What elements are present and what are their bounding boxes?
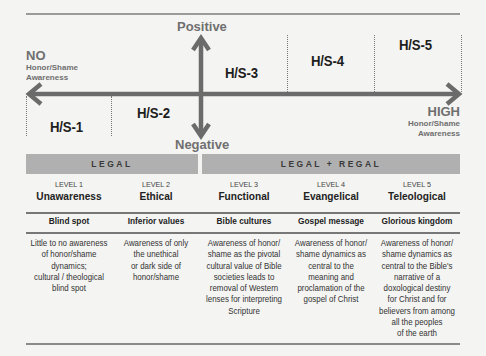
zone-divider [374,35,375,92]
level-description-1: Little to no awarenessof honor/shamedyna… [26,238,112,294]
level-description-3: Awareness of honor/shame as the pivotalc… [200,238,288,317]
level-column-1: LEVEL 1 Unawareness [26,180,112,202]
level-number: LEVEL 3 [204,180,283,189]
axis-left-label: NO Honor/Shame Awareness [26,48,78,83]
axis-right-title: HIGH [408,104,460,119]
level-subtitle-2: Inferior values [116,216,197,226]
level-column-2: LEVEL 2 Ethical [112,180,200,202]
level-number: LEVEL 5 [378,180,455,189]
zone-label-4: H/S-4 [311,52,344,69]
level-column-5: LEVEL 5 Teleological [374,180,460,202]
level-subtitle-1: Blind spot [29,216,108,226]
axis-right-label: HIGH Honor/Shame Awareness [408,104,460,139]
zone-label-3: H/S-3 [225,64,258,81]
level-description-5: Awareness of honor/shame dynamics ascent… [374,238,460,340]
level-subtitle-4: Gospel message [291,216,370,226]
level-name: Teleological [377,190,456,202]
zone-label-2: H/S-2 [137,104,170,121]
bottom-rule [26,343,460,345]
band-legal-regal: LEGAL + REGAL [202,154,460,174]
level-subtitle-3: Bible cultures [204,216,285,226]
axis-right-line2: Awareness [408,129,460,139]
level-column-3: LEVEL 3 Functional [200,180,288,202]
level-name: Ethical [116,190,197,202]
table-divider [26,212,460,214]
level-name: Functional [204,190,285,202]
level-description-4: Awareness of honor/shame dynamics ascent… [288,238,374,306]
level-number: LEVEL 1 [30,180,107,189]
axis-negative-label: Negative [175,137,229,152]
zone-divider [287,35,288,92]
zone-divider [461,35,462,92]
axis-right-line1: Honor/Shame [408,119,460,129]
level-subtitle-5: Glorious kingdom [377,216,456,226]
level-number: LEVEL 2 [116,180,195,189]
level-number: LEVEL 4 [292,180,369,189]
level-name: Evangelical [291,190,370,202]
zone-label-5: H/S-5 [399,36,432,53]
table-divider [26,232,460,234]
axis-positive-label: Positive [177,19,227,34]
level-name: Unawareness [29,190,108,202]
zone-divider [111,96,112,136]
zone-divider [26,96,27,136]
band-legal: LEGAL [26,154,198,174]
zone-label-1: H/S-1 [50,118,83,135]
axis-left-line2: Awareness [26,73,78,83]
axis-left-title: NO [26,48,78,63]
level-column-4: LEVEL 4 Evangelical [288,180,374,202]
level-description-2: Awareness of onlythe unethicalor dark si… [114,238,199,283]
axis-left-line1: Honor/Shame [26,63,78,73]
